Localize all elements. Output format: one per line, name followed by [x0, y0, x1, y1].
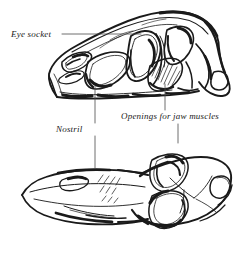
skull-anatomy-figure: Eye socket Nostril Openings for jaw musc…: [0, 0, 236, 257]
label-openings-for-jaw-muscles: Openings for jaw muscles: [121, 111, 219, 121]
lateral-skull-view: [49, 11, 230, 98]
dorsal-skull-view: [22, 154, 232, 229]
label-nostril: Nostril: [56, 124, 82, 134]
label-eye-socket: Eye socket: [11, 29, 51, 39]
